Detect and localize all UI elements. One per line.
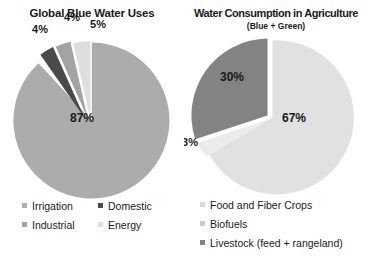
legend-item-biofuels[interactable]: Biofuels bbox=[200, 215, 368, 232]
chart-panel-global-blue-water-uses: Global Blue Water Uses 87% 4% 5% 4% bbox=[0, 0, 184, 263]
legend-swatch-irrigation bbox=[22, 203, 27, 208]
legend-swatch-biofuels bbox=[200, 221, 205, 226]
chart-panel-water-consumption-agriculture: Water Consumption in Agriculture (Blue +… bbox=[184, 0, 368, 263]
chart-title-left: Global Blue Water Uses bbox=[0, 0, 184, 20]
legend-swatch-energy bbox=[98, 222, 103, 227]
pie-slice-industrial[interactable] bbox=[56, 42, 88, 118]
two-pie-chart-figure: Global Blue Water Uses 87% 4% 5% 4% bbox=[0, 0, 368, 263]
legend-right: Food and Fiber Crops Biofuels Livestock … bbox=[184, 196, 368, 251]
legend-label-energy: Energy bbox=[108, 217, 141, 233]
legend-label-livestock: Livestock (feed + rangeland) bbox=[210, 235, 343, 251]
pie-slice-irrigation[interactable] bbox=[13, 43, 169, 199]
pie-slice-biofuels[interactable] bbox=[197, 119, 269, 156]
legend-label-industrial: Industrial bbox=[32, 217, 75, 233]
legend-swatch-domestic bbox=[98, 203, 103, 208]
legend-swatch-food-and-fiber-crops bbox=[200, 202, 205, 207]
pie-left-svg: 87% 4% 5% 4% bbox=[0, 0, 184, 205]
legend-item-food-and-fiber-crops[interactable]: Food and Fiber Crops bbox=[200, 196, 368, 213]
legend-item-irrigation[interactable]: Irrigation bbox=[22, 198, 98, 214]
pie-chart-left: 87% 4% 5% 4% bbox=[0, 0, 184, 205]
legend-left: Irrigation Domestic Industrial Energy bbox=[0, 196, 184, 234]
pie-slice-food-and-fiber-crops[interactable] bbox=[209, 40, 353, 194]
legend-label-food-and-fiber-crops: Food and Fiber Crops bbox=[210, 197, 312, 213]
pie-label-irrigation: 87% bbox=[70, 111, 94, 125]
pie-slice-livestock[interactable] bbox=[191, 39, 267, 140]
chart-title-right: Water Consumption in Agriculture bbox=[184, 0, 368, 20]
pie-label-food-and-fiber-crops: 67% bbox=[282, 111, 306, 125]
legend-item-industrial[interactable]: Industrial bbox=[22, 217, 98, 233]
pie-label-domestic: 4% bbox=[32, 23, 48, 35]
legend-label-biofuels: Biofuels bbox=[210, 216, 247, 232]
pie-slice-domestic[interactable] bbox=[40, 47, 84, 118]
chart-subtitle-right: (Blue + Green) bbox=[184, 20, 368, 31]
pie-label-livestock: 30% bbox=[220, 70, 244, 84]
legend-item-livestock[interactable]: Livestock (feed + rangeland) bbox=[200, 234, 368, 251]
pie-slice-energy[interactable] bbox=[73, 41, 90, 119]
legend-swatch-livestock bbox=[200, 240, 205, 245]
legend-item-energy[interactable]: Energy bbox=[98, 217, 178, 233]
legend-label-irrigation: Irrigation bbox=[32, 198, 73, 214]
legend-swatch-industrial bbox=[22, 222, 27, 227]
legend-label-domestic: Domestic bbox=[108, 198, 152, 214]
pie-label-biofuels: 3% bbox=[184, 136, 198, 148]
legend-item-domestic[interactable]: Domestic bbox=[98, 198, 178, 214]
